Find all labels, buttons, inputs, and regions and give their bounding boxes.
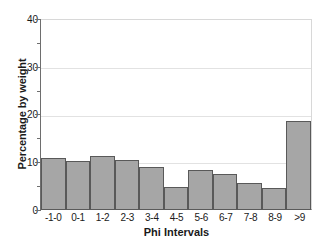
- x-tick-label-4-5: 4-5: [164, 212, 189, 223]
- y-tick-mark-20: [35, 114, 40, 115]
- y-tick-mark-35: [37, 43, 40, 44]
- bar-8-9: [262, 188, 287, 209]
- x-tick-label-5-6: 5-6: [189, 212, 214, 223]
- x-tick-label-1-2: 1-2: [90, 212, 115, 223]
- x-tick-label-2-3: 2-3: [115, 212, 140, 223]
- plot-area: [41, 19, 312, 210]
- x-tick-label-gt-9: >9: [287, 212, 312, 223]
- bar-gt-9: [286, 121, 311, 209]
- y-tick-mark-25: [37, 91, 40, 92]
- bar-0-1: [66, 161, 91, 209]
- bar-6-7: [213, 174, 238, 209]
- x-tick-label-0-1: 0-1: [66, 212, 91, 223]
- x-tick-label-3-4: 3-4: [140, 212, 165, 223]
- x-tick-label-7-8: 7-8: [238, 212, 263, 223]
- y-tick-mark-5: [37, 186, 40, 187]
- y-tick-mark-15: [37, 138, 40, 139]
- bar-5-6: [188, 170, 213, 209]
- y-tick-mark-0: [35, 210, 40, 211]
- bar-7-8: [237, 183, 262, 209]
- bar-3-4: [139, 167, 164, 209]
- y-tick-mark-30: [35, 67, 40, 68]
- bar-chart-figure: Percentage by weight 0 10 20 30 40: [0, 0, 324, 243]
- bar-1-2: [90, 156, 115, 209]
- bar--1-0: [41, 158, 66, 209]
- y-axis-tick-labels: 0 10 20 30 40: [0, 0, 40, 243]
- bar-2-3: [115, 160, 140, 209]
- x-axis-tick-labels: -1-0 0-1 1-2 2-3 3-4 4-5 5-6 6-7 7-8 8-9…: [41, 212, 312, 223]
- bar-4-5: [164, 187, 189, 209]
- x-tick-label-8-9: 8-9: [263, 212, 288, 223]
- bar-series: [41, 20, 311, 209]
- x-tick-label-6-7: 6-7: [213, 212, 238, 223]
- y-tick-mark-10: [35, 162, 40, 163]
- x-tick-label--1-0: -1-0: [41, 212, 66, 223]
- x-axis-title: Phi Intervals: [41, 226, 312, 238]
- y-tick-mark-40: [35, 19, 40, 20]
